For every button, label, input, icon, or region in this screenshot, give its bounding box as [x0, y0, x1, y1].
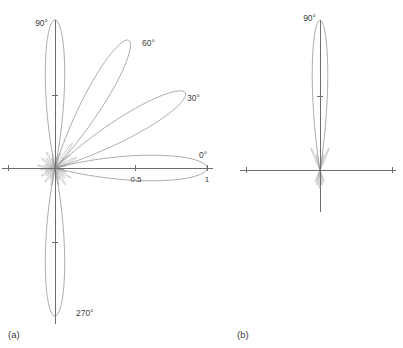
panel-a-radial-tick-label-1: 1 — [205, 175, 210, 184]
panel-a-axes — [2, 20, 213, 324]
panel-b-labels: 90° — [303, 13, 316, 23]
panel-a-angle-label-0: 0° — [199, 150, 207, 160]
panel-b: 90°(b) — [237, 13, 396, 340]
panel-b-angle-label-90: 90° — [303, 13, 316, 23]
panel-a-lobe-60deg — [55, 40, 130, 168]
panel-a-angle-label-30: 30° — [187, 93, 200, 103]
panel-a-caption: (a) — [8, 329, 20, 340]
radiation-pattern-figure: 90°60°30°0°270°0.51(a)90°(b) — [0, 0, 403, 348]
panel-b-caption: (b) — [237, 329, 249, 340]
panel-a: 90°60°30°0°270°0.51(a) — [2, 18, 213, 340]
panel-a-radial-tick-label-0.5: 0.5 — [130, 175, 142, 184]
panel-a-angle-label-270: 270° — [76, 308, 94, 318]
panel-a-angle-label-90: 90° — [35, 18, 48, 28]
panel-a-angle-label-60: 60° — [142, 38, 155, 48]
panel-b-axes — [240, 20, 396, 212]
